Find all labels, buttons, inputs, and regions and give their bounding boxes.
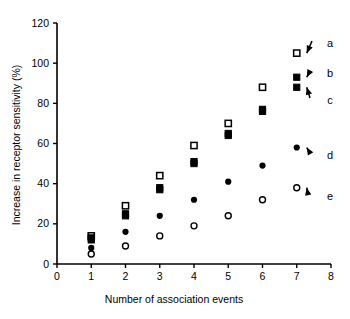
x-tick-label: 1 (88, 270, 94, 282)
data-point-a (294, 50, 300, 56)
y-tick-label: 0 (43, 258, 49, 270)
annotation-arrowhead-d (307, 148, 314, 156)
series-label-a: a (327, 37, 334, 49)
data-point-e (260, 197, 266, 203)
series-label-d: d (327, 149, 333, 161)
annotation-b: b (307, 67, 333, 79)
x-axis-tick-labels: 012345678 (54, 270, 334, 282)
data-point-e (294, 185, 300, 191)
x-tick-label: 7 (294, 270, 300, 282)
data-points-layer (88, 50, 300, 257)
series-annotations-layer: abcde (305, 37, 334, 202)
scatter-chart-figure: 020406080100120 012345678 Number of asso… (0, 0, 350, 319)
y-axis-tick-labels: 020406080100120 (31, 17, 49, 270)
x-tick-label: 4 (191, 270, 197, 282)
x-tick-label: 2 (123, 270, 129, 282)
chart-canvas: 020406080100120 012345678 Number of asso… (0, 0, 350, 319)
data-point-d (88, 245, 94, 251)
y-tick-label: 80 (37, 97, 49, 109)
data-point-c (294, 84, 300, 90)
data-point-a (259, 84, 265, 90)
data-point-d (191, 197, 197, 203)
data-point-b (294, 74, 300, 80)
y-tick-label: 60 (37, 137, 49, 149)
x-tick-label: 0 (54, 270, 60, 282)
data-point-c (122, 213, 128, 219)
data-point-d (225, 179, 231, 185)
annotation-arrowhead-c (306, 87, 312, 95)
y-axis-title: Increase in receptor sensitivity (%) (10, 65, 22, 225)
annotation-arrowhead-e (305, 188, 311, 196)
annotation-e: e (305, 188, 333, 202)
data-point-c (88, 237, 94, 243)
y-tick-label: 40 (37, 177, 49, 189)
data-point-c (191, 160, 197, 166)
data-point-a (191, 142, 197, 148)
x-tick-label: 3 (157, 270, 163, 282)
series-label-c: c (327, 94, 333, 106)
data-point-d (259, 162, 265, 168)
annotation-arrowhead-b (307, 69, 313, 77)
x-tick-label: 8 (328, 270, 334, 282)
y-tick-label: 20 (37, 217, 49, 229)
data-point-a (225, 120, 231, 126)
data-point-d (294, 144, 300, 150)
data-point-a (122, 203, 128, 209)
x-tick-label: 5 (225, 270, 231, 282)
x-tick-label: 6 (260, 270, 266, 282)
data-point-e (123, 243, 129, 249)
series-label-b: b (327, 67, 333, 79)
y-tick-label: 100 (31, 57, 49, 69)
data-point-e (88, 251, 94, 257)
data-point-d (157, 213, 163, 219)
annotation-a: a (307, 37, 334, 53)
annotation-c: c (306, 87, 333, 106)
series-label-e: e (327, 190, 333, 202)
data-point-e (191, 223, 197, 229)
data-point-e (225, 213, 231, 219)
data-point-c (157, 187, 163, 193)
data-point-a (157, 173, 163, 179)
data-point-e (157, 233, 163, 239)
data-point-c (259, 108, 265, 114)
data-point-c (225, 132, 231, 138)
data-point-d (122, 229, 128, 235)
x-axis-title: Number of association events (105, 293, 243, 305)
annotation-d: d (307, 148, 333, 161)
y-tick-label: 120 (31, 17, 49, 29)
